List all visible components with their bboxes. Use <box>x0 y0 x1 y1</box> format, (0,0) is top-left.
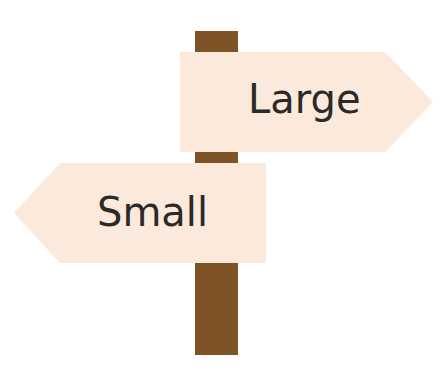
sign-label-large: Large <box>248 79 361 119</box>
sign-small-arrow-left: Small <box>14 163 266 263</box>
sign-label-small: Small <box>97 192 208 232</box>
sign-large-arrow-right: Large <box>180 52 433 152</box>
